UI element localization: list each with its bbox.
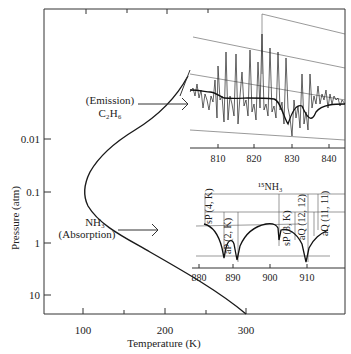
y-tick-0.01: 0.01 (21, 133, 40, 145)
x-axis-label: Temperature (K) (127, 337, 201, 350)
label-aQ-11-11: aQ (11, 11) (319, 191, 331, 236)
emission-annotation: (Emission) C₂H₆ (86, 70, 190, 119)
absorption-annotation: NH₃ (Absorption) (59, 216, 158, 241)
emission-tick-820: 820 (247, 153, 262, 164)
emission-tick-840: 840 (322, 153, 337, 164)
emission-tick-810: 810 (211, 153, 226, 164)
absorption-tick-880: 880 (192, 272, 207, 283)
label-aQ-12-12: aQ (12, 12) (296, 194, 308, 240)
y-tick-labels: 0.01 0.1 1 10 (21, 133, 41, 301)
label-aP-2K: aP (2, K) (222, 218, 234, 254)
absorption-tick-910: 910 (300, 272, 315, 283)
x-tick-100: 100 (75, 324, 92, 336)
emission-tick-830: 830 (285, 153, 300, 164)
y-tick-10: 10 (29, 289, 41, 301)
absorption-tick-890: 890 (226, 272, 241, 283)
label-15NH3: ¹⁵NH₃ (258, 181, 282, 192)
figure: 100 200 300 Temperature (K) 0.01 0.1 1 1… (0, 0, 351, 354)
x-tick-200: 200 (157, 324, 174, 336)
emission-spectrum (190, 34, 345, 136)
y-tick-1: 1 (35, 237, 41, 249)
x-tick-300: 300 (238, 324, 255, 336)
emission-label: (Emission) (86, 94, 135, 107)
emission-species-label: C₂H₆ (99, 107, 122, 119)
label-sP-3K: sP (3, K) (281, 211, 293, 246)
absorption-tick-900: 900 (263, 272, 278, 283)
emission-inset: 810 820 830 840 (190, 14, 345, 164)
absorption-label: (Absorption) (59, 228, 116, 241)
y-axis-label: Pressure (atm) (9, 186, 22, 250)
absorption-inset: 880 890 900 910 sP (4, K) aP (2, K) ¹⁵NH… (192, 181, 346, 283)
absorption-species-label: NH₃ (85, 216, 105, 228)
x-tick-labels: 100 200 300 (75, 324, 255, 336)
label-sP-4K: sP (4, K) (203, 189, 215, 224)
y-tick-0.1: 0.1 (26, 186, 40, 198)
